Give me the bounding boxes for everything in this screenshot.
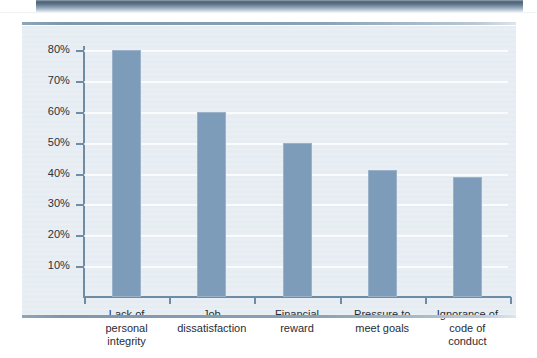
y-axis-tick	[76, 204, 83, 206]
y-axis-tick	[76, 266, 83, 268]
scan-artifact-mask-left	[0, 0, 36, 12]
gridline	[84, 50, 508, 52]
x-axis-tick	[340, 297, 342, 304]
bar-chart-figure: 10%20%30%40%50%60%70%80%Lack ofpersonali…	[22, 22, 516, 338]
bar	[283, 143, 312, 297]
figure-bottom-rule	[22, 315, 516, 318]
y-axis-tick	[76, 50, 83, 52]
x-axis-category-label-line: integrity	[73, 335, 181, 349]
x-axis-tick	[84, 297, 86, 304]
scan-artifact-mask-right	[523, 0, 537, 12]
bar	[368, 170, 397, 297]
y-axis-tick	[76, 81, 83, 83]
bar	[112, 50, 141, 297]
y-axis-tick-label: 60%	[26, 105, 70, 117]
gridline	[84, 81, 508, 83]
gridline	[84, 112, 508, 114]
plot-panel: 10%20%30%40%50%60%70%80%Lack ofpersonali…	[22, 26, 516, 316]
x-axis-category-label-line: conduct	[413, 335, 521, 349]
bar	[453, 177, 482, 297]
y-axis-tick	[76, 143, 83, 145]
x-axis-tick	[425, 297, 427, 304]
y-axis-tick-label: 70%	[26, 74, 70, 86]
x-axis-tick	[510, 297, 512, 304]
x-axis-tick	[254, 297, 256, 304]
y-axis-tick-label: 10%	[26, 259, 70, 271]
y-axis-tick-label: 20%	[26, 228, 70, 240]
y-axis-tick-label: 50%	[26, 136, 70, 148]
x-axis-category-label-line: code of	[413, 322, 521, 336]
y-axis-tick-label: 30%	[26, 197, 70, 209]
y-axis-tick	[76, 235, 83, 237]
figure-top-rule	[22, 22, 516, 25]
y-axis-tick-label: 80%	[26, 43, 70, 55]
x-axis-tick	[169, 297, 171, 304]
plot-area: 10%20%30%40%50%60%70%80%Lack ofpersonali…	[22, 26, 516, 316]
bar	[197, 112, 226, 297]
y-axis-line	[83, 46, 85, 298]
y-axis-tick-label: 40%	[26, 167, 70, 179]
scan-artifact-band	[0, 0, 537, 12]
y-axis-tick	[76, 174, 83, 176]
y-axis-tick	[76, 112, 83, 114]
